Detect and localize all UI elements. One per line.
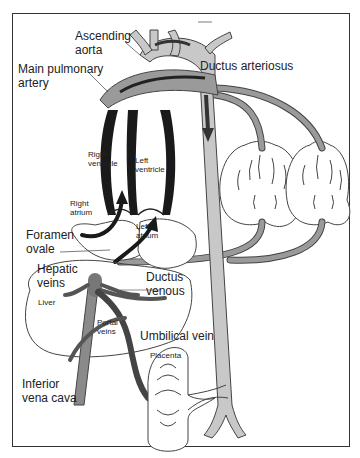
umbilical-vein: [98, 292, 148, 398]
label-left-ventricle: Left ventricle: [135, 156, 171, 174]
label-left-atrium: Left atrium: [136, 222, 166, 240]
label-inferior-vena-cava: Inferior vena cava: [22, 378, 82, 406]
label-ductus-arteriosus: Ductus arteriosus: [200, 60, 293, 74]
left-lung: [286, 141, 350, 225]
label-portal-veins: Portal veins: [97, 318, 131, 336]
label-ascending-aorta: Ascending aorta: [75, 30, 155, 58]
label-hepatic-veins: Hepatic veins: [37, 263, 87, 291]
label-right-atrium: Right atrium: [70, 199, 100, 217]
label-ductus-venous: Ductus venous: [146, 271, 196, 299]
label-main-pulmonary-artery: Main pulmonary artery: [18, 63, 118, 91]
label-liver: Liver: [38, 298, 55, 307]
label-umbilical-vein: Umbilical vein: [140, 330, 214, 344]
label-placenta: Placenta: [150, 351, 181, 360]
label-right-ventricle: Right ventricle: [88, 150, 124, 168]
label-foramen-ovale: Foramen ovale: [26, 229, 82, 257]
